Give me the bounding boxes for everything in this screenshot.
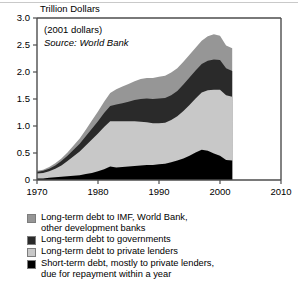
legend-item: Short-term debt, mostly to private lende… xyxy=(0,258,298,279)
y-tick-label: 0.5 xyxy=(17,147,30,158)
dollars-annotation: (2001 dollars) xyxy=(44,24,102,35)
x-tick-label: 1990 xyxy=(148,186,169,197)
legend-swatch-icon xyxy=(27,214,36,223)
legend-item-label: Long-term debt to governments xyxy=(41,234,171,245)
chart-legend: Long-term debt to IMF, World Bank, other… xyxy=(0,212,298,280)
legend-item-label: Long-term debt to IMF, World Bank, other… xyxy=(41,212,188,233)
y-axis-ticks: 00.51.01.52.02.53.0 xyxy=(17,12,37,185)
source-annotation: Source: World Bank xyxy=(44,37,130,48)
area-series-group xyxy=(37,34,232,180)
x-tick-label: 2000 xyxy=(209,186,230,197)
x-tick-label: 2010 xyxy=(270,186,291,197)
legend-swatch-icon xyxy=(27,248,36,257)
y-tick-label: 2.0 xyxy=(17,66,30,77)
y-tick-label: 1.5 xyxy=(17,93,30,104)
y-tick-label: 3.0 xyxy=(17,12,30,23)
stacked-area-plot: Trillion Dollars (2001 dollars) Source: … xyxy=(0,0,298,212)
y-tick-label: 0 xyxy=(25,174,30,185)
legend-item: Long-term debt to IMF, World Bank, other… xyxy=(0,212,298,233)
x-tick-label: 1970 xyxy=(26,186,47,197)
legend-swatch-icon xyxy=(27,260,36,269)
legend-item: Long-term debt to private lenders xyxy=(0,246,298,257)
legend-item-label: Long-term debt to private lenders xyxy=(41,246,178,257)
y-axis-unit-title: Trillion Dollars xyxy=(40,3,100,14)
x-tick-label: 1980 xyxy=(87,186,108,197)
x-axis-ticks: 19701980199020002010 xyxy=(26,180,291,197)
y-tick-label: 2.5 xyxy=(17,39,30,50)
debt-chart-figure: Trillion Dollars (2001 dollars) Source: … xyxy=(0,0,298,304)
y-tick-label: 1.0 xyxy=(17,120,30,131)
legend-swatch-icon xyxy=(27,236,36,245)
legend-item: Long-term debt to governments xyxy=(0,234,298,245)
legend-item-label: Short-term debt, mostly to private lende… xyxy=(41,258,214,279)
